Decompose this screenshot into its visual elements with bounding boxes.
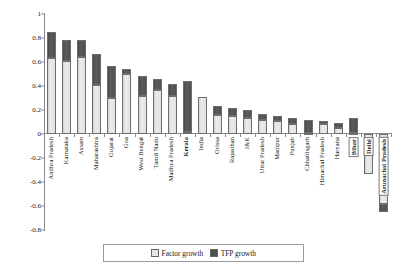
bar-0[interactable] [47,14,56,230]
x-label-9: Kerala [183,137,190,156]
x-tick-mark [346,134,347,137]
legend-label-factor-growth: Factor growth [162,249,204,258]
y-tick-label: 0.8 [32,35,41,42]
bar-14[interactable] [258,14,267,230]
bar-1[interactable] [62,14,71,230]
x-tick-mark [331,134,332,137]
bar-segment-tfp [168,84,177,96]
x-label-2: Assam [78,137,85,155]
bar-segment-factor [319,124,328,134]
y-tick-label: -0.2 [30,155,41,162]
x-label-18: Himachal Pradesh [319,137,326,185]
x-label-11: Orissa [214,137,221,154]
bar-segment-tfp [349,118,358,132]
y-tick-label: 0.6 [32,59,41,66]
legend-item-tfp-growth: TFP growth [210,249,256,258]
bar-3[interactable] [92,14,101,230]
bar-12[interactable] [228,14,237,230]
x-tick-mark [74,134,75,137]
bar-4[interactable] [107,14,116,230]
x-tick-mark [180,134,181,137]
bar-segment-factor [273,121,282,134]
bar-19[interactable] [334,14,343,230]
bar-21[interactable] [364,14,373,230]
y-tick-label: -0.4 [30,179,41,186]
y-tick-label: 1 [38,11,42,18]
bar-17[interactable] [304,14,313,230]
y-tick-label: 0.2 [32,107,41,114]
x-label-10: India [198,137,205,151]
bar-segment-factor [213,115,222,134]
bar-6[interactable] [138,14,147,230]
bar-10[interactable] [198,14,207,230]
x-label-3: Maharashtra [93,137,100,170]
bar-segment-factor [138,96,147,134]
bar-segment-factor [168,96,177,134]
x-tick-mark [150,134,151,137]
bar-5[interactable] [122,14,131,230]
bar-segment-tfp [107,66,116,98]
bar-segment-tfp [92,54,101,85]
bar-16[interactable] [288,14,297,230]
x-label-1: Karnataka [63,137,70,164]
x-tick-mark [240,134,241,137]
bar-segment-factor [122,74,131,134]
bar-13[interactable] [243,14,252,230]
bar-segment-tfp [288,118,297,124]
bar-8[interactable] [168,14,177,230]
x-label-16: Punjab [289,137,296,155]
bar-11[interactable] [213,14,222,230]
bar-segment-tfp [213,106,222,114]
chart-legend: Factor growth TFP growth [103,244,304,262]
bar-segment-factor [183,132,192,134]
bar-segment-factor [334,128,343,134]
bar-segment-factor [77,57,86,134]
x-label-8: Madhya Pradesh [168,137,175,181]
bar-22[interactable] [379,14,388,230]
legend-label-tfp-growth: TFP growth [221,249,256,258]
x-tick-mark [89,134,90,137]
bar-segment-factor [228,116,237,134]
bar-15[interactable] [273,14,282,230]
bar-segment-factor [107,98,116,134]
bar-segment-tfp [334,123,343,128]
x-label-0: Andhra Pradesh [48,137,55,179]
bar-20[interactable] [349,14,358,230]
x-tick-mark [376,134,377,137]
x-tick-mark [270,134,271,137]
x-tick-mark [210,134,211,137]
x-tick-mark [391,134,392,137]
bar-series-group [44,14,391,230]
bar-segment-tfp [153,79,162,90]
x-label-17: Chhattisgarh [304,137,311,171]
bar-segment-factor [153,90,162,134]
bar-7[interactable] [153,14,162,230]
bar-segment-tfp [47,32,56,58]
x-tick-mark [195,134,196,137]
x-tick-mark [59,134,60,137]
x-tick-mark [165,134,166,137]
x-label-15: Manipur [274,137,281,160]
bar-segment-tfp [379,204,388,212]
bar-2[interactable] [77,14,86,230]
x-label-19: Haryana [334,137,341,159]
x-tick-mark [285,134,286,137]
bar-segment-factor [304,133,313,135]
x-label-14: Uttar Pradesh [259,137,266,173]
bar-segment-factor [258,120,267,134]
y-tick-label: -0.6 [30,203,41,210]
x-tick-mark [255,134,256,137]
x-label-22: Arunachal Pradesh [379,137,389,196]
y-tick-label: -0.8 [30,227,41,234]
bar-9[interactable] [183,14,192,230]
x-label-7: Tamil Nadu [153,137,160,168]
bar-segment-tfp [243,110,252,118]
stacked-bar-chart: 10.80.60.40.20-0.2-0.4-0.6-0.8 Andhra Pr… [0,0,405,271]
bar-segment-tfp [183,81,192,131]
x-tick-mark [316,134,317,137]
x-label-4: Gujarat [108,137,115,157]
y-tick-label: 0.4 [32,83,41,90]
bar-18[interactable] [319,14,328,230]
x-tick-mark [225,134,226,137]
bar-segment-tfp [62,40,71,60]
